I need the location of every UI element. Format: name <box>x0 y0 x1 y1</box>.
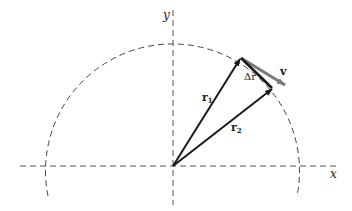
delta-r-label: Δr <box>244 72 256 82</box>
r2-vector <box>173 89 272 166</box>
r1-label: r1 <box>202 92 213 104</box>
r2-subscript: 2 <box>237 126 242 135</box>
r2-label: r2 <box>231 122 242 134</box>
r1-vector <box>173 59 240 166</box>
r1-subscript: 1 <box>208 96 213 105</box>
diagram-canvas: y x r1 r2 Δr v <box>0 0 352 211</box>
x-axis-label: x <box>330 168 337 180</box>
diagram-svg <box>0 0 352 211</box>
velocity-label: v <box>280 66 286 77</box>
y-axis-label: y <box>163 9 170 21</box>
